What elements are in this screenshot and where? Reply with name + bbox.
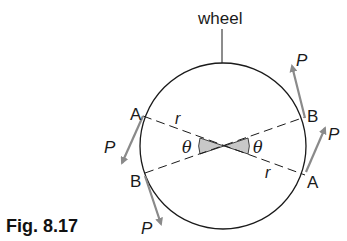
- line-B-to-B: [145, 117, 305, 173]
- radius-label-lower: r: [265, 164, 271, 181]
- force-arrow-left-B: [145, 176, 161, 224]
- force-label-right-A: P: [328, 125, 340, 144]
- point-label-left-A: A: [130, 105, 142, 124]
- angle-label-left: θ: [182, 138, 192, 157]
- line-A-to-A: [143, 116, 305, 175]
- point-label-right-B: B: [307, 107, 318, 126]
- figure-caption: Fig. 8.17: [6, 216, 78, 236]
- point-label-left-B: B: [130, 172, 141, 191]
- force-label-right-B: P: [296, 51, 308, 70]
- angle-sector-right: [224, 138, 249, 154]
- wheel-label: wheel: [197, 9, 242, 28]
- point-label-right-A: A: [307, 173, 319, 192]
- radius-label-upper: r: [175, 110, 181, 127]
- force-label-left-A: P: [104, 138, 116, 157]
- force-arrow-right-A: [306, 128, 325, 172]
- wheel-diagram: wheel A B B A r r θ θ P P P P Fig. 8.17: [0, 0, 347, 241]
- angle-label-right: θ: [253, 138, 263, 157]
- force-label-left-B: P: [141, 219, 153, 238]
